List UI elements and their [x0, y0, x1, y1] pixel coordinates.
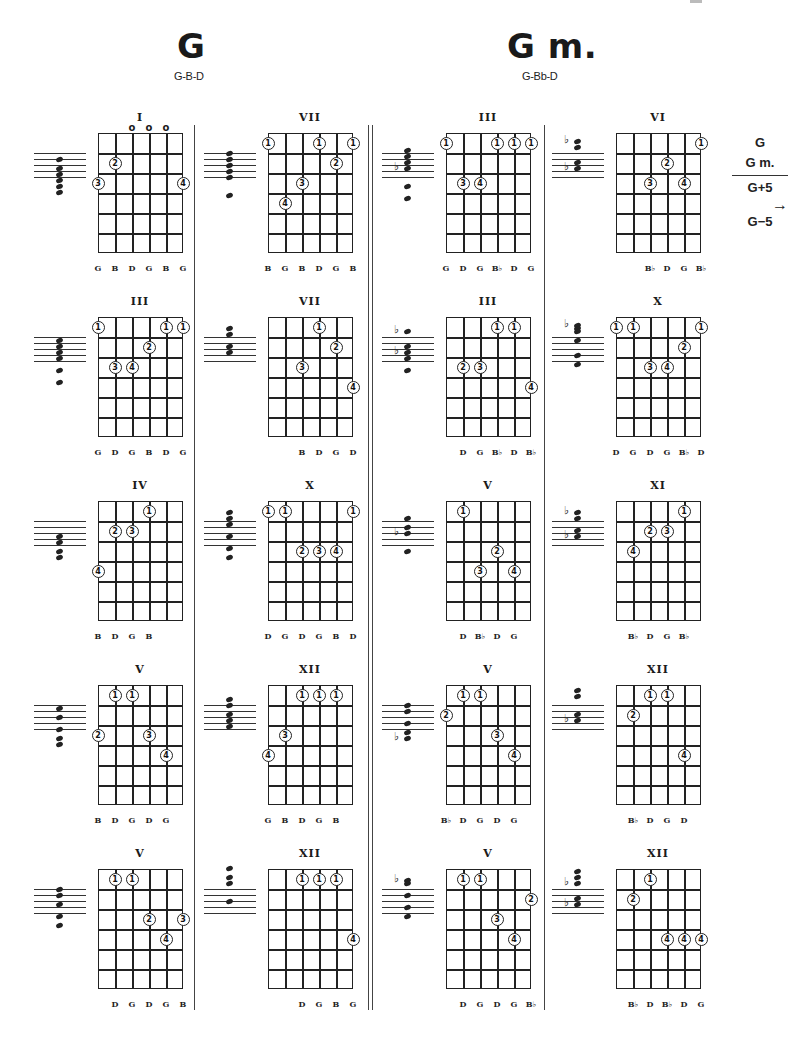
column-divider [544, 125, 545, 1010]
staff-line [34, 527, 86, 528]
legend-item-g-dim[interactable]: G−5 [732, 212, 788, 232]
note-head [403, 719, 411, 726]
finger-marker: 4 [126, 361, 139, 374]
fret-line [99, 705, 182, 706]
staff-line [552, 907, 604, 908]
string-note-label: B♭ [472, 631, 488, 641]
fretboard-grid [446, 501, 531, 621]
finger-marker: 2 [627, 893, 640, 906]
fret-line [99, 541, 182, 542]
finger-marker: 1 [92, 321, 105, 334]
fret-line [447, 705, 530, 706]
finger-marker: 1 [313, 873, 326, 886]
fret-line [99, 929, 182, 930]
note-head [403, 547, 411, 554]
finger-marker: 1 [491, 321, 504, 334]
fret-line [269, 213, 352, 214]
note-head [225, 864, 233, 871]
staff-line [382, 901, 434, 902]
finger-marker: 1 [262, 505, 275, 518]
string-note-label: D [141, 815, 157, 825]
flat-accidental-icon: ♭ [564, 318, 569, 329]
finger-marker: 1 [610, 321, 623, 334]
fretboard-grid [616, 133, 701, 253]
string-note-label: B♭ [438, 815, 454, 825]
fret-line [617, 521, 700, 522]
string-note-label: G [506, 815, 522, 825]
flat-accidental-icon: ♭ [564, 505, 569, 516]
string-note-label: G [124, 815, 140, 825]
finger-marker: 4 [678, 177, 691, 190]
note-head [55, 740, 63, 747]
finger-marker: 2 [330, 157, 343, 170]
staff-line [552, 177, 604, 178]
staff-line [34, 153, 86, 154]
finger-marker: 1 [508, 137, 521, 150]
string-note-label: B [141, 447, 157, 457]
fretboard-grid [446, 685, 531, 805]
note-head [403, 903, 411, 910]
fret-line [269, 541, 352, 542]
chord-navigation-legend: G G m. G+5 → G−5 [732, 133, 788, 232]
fretboard-grid [446, 317, 531, 437]
fret-line [447, 193, 530, 194]
section-notes-gm: G-Bb-D [522, 70, 557, 82]
flat-accidental-icon: ♭ [394, 526, 399, 537]
fret-line [99, 337, 182, 338]
fret-line [617, 397, 700, 398]
staff-line [204, 895, 256, 896]
fret-position-label: V [445, 663, 531, 676]
fret-line [617, 765, 700, 766]
finger-marker: 1 [126, 689, 139, 702]
finger-marker: 4 [508, 933, 521, 946]
fret-line [447, 397, 530, 398]
string-note-label: G [345, 999, 361, 1009]
string-note-label: G [506, 631, 522, 641]
legend-item-g[interactable]: G [732, 133, 788, 153]
fret-line [99, 765, 182, 766]
finger-marker: 4 [661, 933, 674, 946]
finger-marker: 1 [262, 137, 275, 150]
note-head [225, 324, 233, 331]
string-note-label: D [294, 815, 310, 825]
finger-marker: 4 [347, 933, 360, 946]
fret-line [617, 541, 700, 542]
fret-line [269, 969, 352, 970]
fret-line [99, 725, 182, 726]
string-note-label: D [642, 631, 658, 641]
page-number-fragment [690, 0, 702, 3]
fretboard-grid [268, 133, 353, 253]
staff-line [552, 545, 604, 546]
string-note-label: B♭ [523, 447, 539, 457]
finger-marker: 3 [474, 361, 487, 374]
fret-line [617, 337, 700, 338]
fret-line [269, 601, 352, 602]
legend-item-g-aug[interactable]: G+5 [732, 178, 788, 198]
finger-marker: 4 [177, 177, 190, 190]
string-note-label: D [693, 447, 709, 457]
fretboard-grid [268, 501, 353, 621]
fret-line [447, 785, 530, 786]
flat-accidental-icon: ♭ [394, 324, 399, 335]
finger-marker: 1 [313, 137, 326, 150]
finger-marker: 1 [126, 873, 139, 886]
string-note-label: G [90, 263, 106, 273]
finger-marker: 3 [126, 525, 139, 538]
note-head [403, 891, 411, 898]
string-note-label: G [472, 447, 488, 457]
string-note-label: G [277, 631, 293, 641]
legend-item-gm[interactable]: G m. [732, 153, 788, 173]
string-note-label: D [489, 631, 505, 641]
finger-marker: 2 [627, 709, 640, 722]
string-note-label: B [158, 263, 174, 273]
string-note-label: B [294, 447, 310, 457]
note-head [55, 188, 63, 195]
finger-marker: 3 [491, 913, 504, 926]
music-staff: ♭ [382, 153, 434, 183]
music-staff: ♭ [382, 521, 434, 551]
finger-marker: 4 [160, 749, 173, 762]
fret-line [269, 337, 352, 338]
string-note-label: D [455, 999, 471, 1009]
string-note-label: D [107, 631, 123, 641]
finger-marker: 1 [347, 505, 360, 518]
